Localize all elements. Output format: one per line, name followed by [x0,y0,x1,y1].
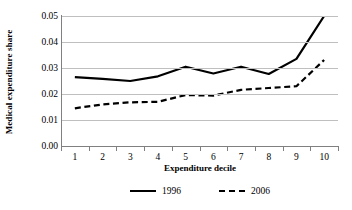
x-axis-title: Expenditure decile [61,163,339,173]
x-axis-tick-mark [283,147,284,151]
x-axis-tick-mark [89,147,90,151]
y-axis-tick-label: 0.04 [24,37,58,47]
y-axis-line [61,15,62,147]
x-axis-tick-mark [144,147,145,151]
legend-item-2006: 2006 [219,186,270,196]
x-axis-tick-mark [61,147,62,151]
x-axis-tick-mark [310,147,311,151]
legend-label: 1996 [162,186,181,196]
gridline [61,68,338,69]
y-axis-tick-label: 0.02 [24,89,58,99]
x-axis-tick-mark [338,147,339,151]
y-axis-tick-label: 0.00 [24,141,58,151]
gridline [61,42,338,43]
chart-figure: Medical expenditure share 0.000.010.020.… [0,0,352,210]
x-axis-tick-label: 7 [229,152,253,163]
x-axis-tick-label: 10 [312,152,336,163]
x-axis-tick-label: 4 [146,152,170,163]
legend-label: 2006 [251,186,270,196]
legend-item-1996: 1996 [130,186,181,196]
x-axis-tick-label: 5 [174,152,198,163]
x-axis-tick-mark [172,147,173,151]
x-axis-tick-label: 3 [118,152,142,163]
y-axis-tick-label: 0.01 [24,115,58,125]
series-canvas [61,16,338,146]
x-axis-tick-mark [200,147,201,151]
y-axis-tick-labels: 0.000.010.020.030.040.05 [20,0,58,210]
x-axis-tick-mark [255,147,256,151]
legend-swatch-dashed-line [219,186,245,196]
y-axis-tick-label: 0.05 [24,11,58,21]
y-axis-tick-label: 0.03 [24,63,58,73]
x-axis-tick-mark [116,147,117,151]
series-line-1996 [75,16,324,81]
legend-swatch-solid-line [130,186,156,196]
x-axis-tick-label: 6 [201,152,225,163]
y-axis-title: Medical expenditure share [0,18,18,146]
plot-area [61,16,338,146]
x-axis-tick-label: 1 [63,152,87,163]
gridline [61,120,338,121]
x-axis-tick-label: 8 [257,152,281,163]
x-axis-tick-mark [227,147,228,151]
x-axis-tick-label: 2 [91,152,115,163]
chart-legend: 1996 2006 [61,184,339,198]
y-axis-title-text: Medical expenditure share [4,30,14,135]
gridline [61,94,338,95]
x-axis-tick-label: 9 [284,152,308,163]
gridline [61,16,338,17]
